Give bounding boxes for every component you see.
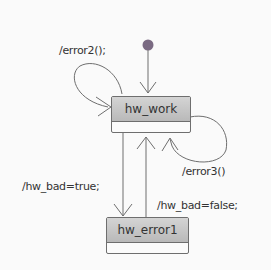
state-hw-error1-label: hw_error1 (107, 218, 188, 243)
transition-label-hw-bad-true: /hw_bad=true; (22, 180, 99, 193)
initial-state-dot (143, 40, 154, 51)
transition-label-error3: /error3() (182, 165, 225, 178)
transition-label-hw-bad-false: /hw_bad=false; (157, 199, 238, 212)
state-hw-error1[interactable]: hw_error1 (106, 217, 189, 254)
arrowhead-error2 (96, 97, 111, 116)
state-hw-work[interactable]: hw_work (111, 96, 191, 133)
transition-label-error2: /error2(); (59, 44, 106, 57)
state-hw-work-label: hw_work (112, 97, 190, 122)
state-diagram: hw_work hw_error1 /error2(); /error3() /… (0, 0, 271, 270)
